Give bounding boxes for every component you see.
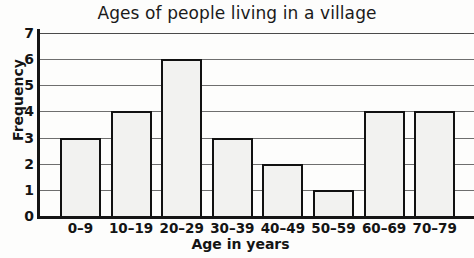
bar bbox=[364, 111, 405, 218]
bar bbox=[60, 138, 101, 218]
x-tick-label: 70–79 bbox=[405, 220, 465, 236]
x-axis-title: Age in years bbox=[38, 236, 443, 252]
gridline bbox=[38, 85, 474, 86]
y-tick-label: 0 bbox=[16, 209, 34, 223]
bar bbox=[414, 111, 455, 218]
gridline bbox=[38, 33, 474, 34]
y-tick-label: 5 bbox=[16, 78, 34, 92]
y-tick-label: 7 bbox=[16, 26, 34, 40]
histogram-figure: Ages of people living in a village Frequ… bbox=[0, 0, 474, 258]
bar bbox=[262, 164, 303, 218]
y-tick-label: 4 bbox=[16, 104, 34, 118]
chart-title: Ages of people living in a village bbox=[0, 2, 474, 24]
y-tick-label: 6 bbox=[16, 52, 34, 66]
y-tick-label: 3 bbox=[16, 131, 34, 145]
bar bbox=[111, 111, 152, 218]
plot-area bbox=[38, 31, 474, 218]
gridline bbox=[38, 190, 474, 191]
x-axis-line bbox=[38, 216, 474, 219]
gridline bbox=[38, 111, 474, 112]
bar bbox=[313, 190, 354, 218]
gridline bbox=[38, 164, 474, 165]
gridline bbox=[38, 138, 474, 139]
y-axis-line bbox=[37, 29, 40, 219]
y-tick-label: 2 bbox=[16, 157, 34, 171]
y-tick-label: 1 bbox=[16, 183, 34, 197]
bar bbox=[212, 138, 253, 218]
gridline bbox=[38, 59, 474, 60]
bar bbox=[161, 59, 202, 218]
